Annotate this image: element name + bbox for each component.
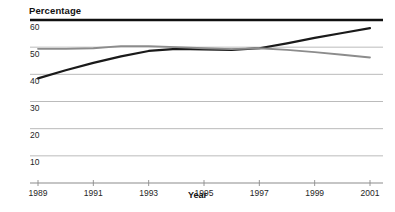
- data-series-group: [38, 28, 370, 78]
- x-axis-title: Year: [0, 190, 395, 201]
- y-tick-label: 60: [30, 22, 39, 32]
- y-tick-label: 50: [30, 49, 39, 59]
- y-tick-label: 30: [30, 103, 39, 113]
- line-chart: Percentage 605040302010 1989199119931995…: [0, 0, 395, 212]
- series-line-gray-series: [38, 46, 370, 57]
- y-tick-label: 40: [30, 76, 39, 86]
- y-tick-label: 20: [30, 130, 39, 140]
- chart-plot-area: [0, 0, 395, 212]
- gridlines-group: [30, 20, 383, 156]
- y-tick-label: 10: [30, 157, 39, 167]
